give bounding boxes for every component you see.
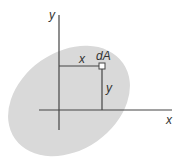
element-da-square bbox=[99, 63, 105, 69]
area-region bbox=[0, 23, 151, 161]
diagram-canvas: y x dA x y bbox=[0, 0, 181, 161]
y-axis-label: y bbox=[48, 8, 56, 22]
x-distance-label: x bbox=[78, 52, 86, 66]
y-distance-label: y bbox=[105, 81, 113, 95]
x-axis-label: x bbox=[165, 113, 173, 127]
element-da-label: dA bbox=[96, 49, 111, 63]
